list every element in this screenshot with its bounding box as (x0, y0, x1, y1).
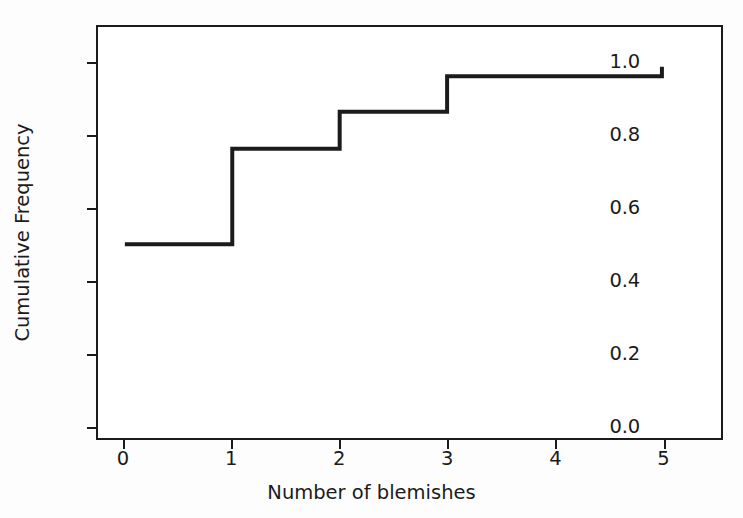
x-axis-tick-label: 0 (103, 449, 143, 469)
plot-area (96, 25, 723, 440)
y-axis-tick-label: 0.8 (610, 125, 640, 145)
y-axis-tick-mark (87, 62, 96, 64)
y-axis-tick-mark (87, 135, 96, 137)
y-axis-title-text: Cumulative Frequency (11, 123, 34, 341)
x-axis-title-text: Number of blemishes (267, 481, 475, 504)
y-axis-tick-mark (87, 208, 96, 210)
y-axis-title: Cumulative Frequency (9, 0, 35, 465)
y-axis-tick-label: 0.4 (610, 271, 640, 291)
figure-canvas: Cumulative Frequency 0.00.20.40.60.81.0 … (0, 0, 743, 518)
x-axis-tick-label: 3 (427, 449, 467, 469)
step-curve-path (125, 67, 662, 244)
y-axis-tick-label: 0.6 (610, 198, 640, 218)
y-axis-tick-mark (87, 354, 96, 356)
x-axis-tick-label: 4 (535, 449, 575, 469)
y-axis-tick-label: 1.0 (610, 52, 640, 72)
step-curve (98, 27, 721, 438)
y-axis-tick-label: 0.0 (610, 417, 640, 437)
x-axis-tick-label: 2 (319, 449, 359, 469)
x-axis-title: Number of blemishes (0, 481, 743, 504)
y-axis-tick-label: 0.2 (610, 344, 640, 364)
x-axis-tick-label: 5 (644, 449, 684, 469)
y-axis-tick-mark (87, 281, 96, 283)
x-axis-tick-label: 1 (211, 449, 251, 469)
y-axis-tick-mark (87, 427, 96, 429)
